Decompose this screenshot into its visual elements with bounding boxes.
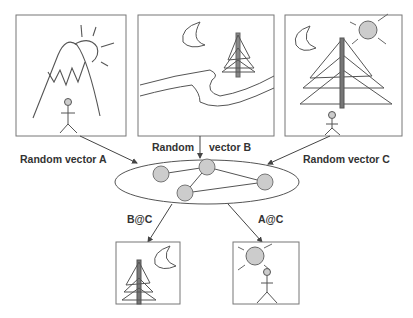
label-vector-b-right: vector B bbox=[209, 141, 251, 153]
memory-ellipse bbox=[115, 159, 299, 204]
label-vector-a: Random vector A bbox=[20, 153, 107, 165]
label-vector-b-left: Random bbox=[152, 141, 194, 153]
memory-node bbox=[153, 166, 169, 182]
label-output-bc: B@C bbox=[127, 213, 152, 225]
output-panel-ac bbox=[233, 242, 299, 304]
memory-node bbox=[257, 174, 273, 190]
input-panel-a bbox=[16, 15, 126, 136]
label-vector-c: Random vector C bbox=[303, 153, 390, 165]
arrow-ac bbox=[228, 204, 262, 242]
input-panel-c bbox=[285, 14, 402, 136]
memory-node bbox=[199, 159, 215, 175]
memory-node bbox=[177, 185, 193, 201]
output-panel-bc bbox=[116, 242, 180, 304]
input-panel-b bbox=[138, 15, 274, 136]
label-output-ac: A@C bbox=[258, 213, 283, 225]
